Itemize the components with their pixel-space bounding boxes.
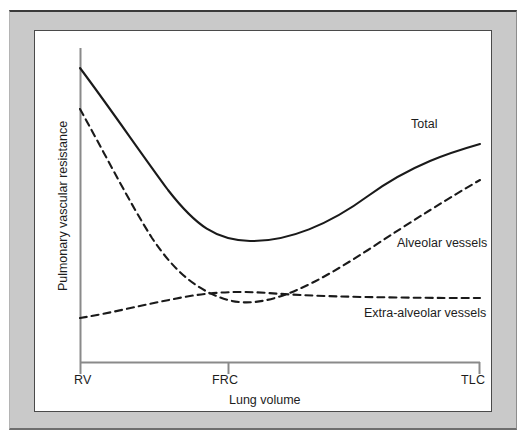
series-label-extra-alveolar-vessels: Extra-alveolar vessels [364, 306, 486, 320]
series-label-total: Total [411, 117, 437, 131]
x-axis-title: Lung volume [229, 393, 301, 407]
x-tick-label-rv: RV [74, 373, 92, 387]
x-tick-label-tlc: TLC [461, 373, 485, 387]
figure-outer-frame [9, 10, 517, 430]
y-axis-title: Pulmonary vascular resistance [56, 96, 70, 316]
series-label-alveolar-vessels: Alveolar vessels [397, 236, 487, 250]
chart-panel [34, 30, 492, 412]
figure-root: RV FRC TLC Lung volume Pulmonary vascula… [0, 0, 529, 442]
x-tick-label-frc: FRC [212, 373, 238, 387]
